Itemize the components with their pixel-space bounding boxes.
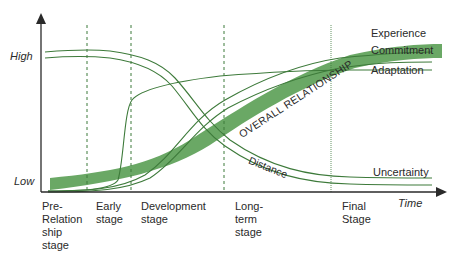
stage-label-early: Early stage	[96, 200, 123, 226]
y-high-label: High	[10, 50, 33, 63]
adaptation-label: Adaptation	[371, 64, 424, 77]
stage-label-long-term: Long- term stage	[235, 200, 263, 239]
x-axis-arrow-icon	[436, 187, 447, 197]
experience-label: Experience	[371, 27, 426, 40]
stage-label-final: Final Stage	[342, 200, 371, 226]
commitment-label: Commitment	[371, 44, 433, 57]
x-time-label: Time	[398, 197, 422, 210]
stage-label-development: Development stage	[141, 200, 206, 226]
y-low-label: Low	[14, 175, 34, 188]
stage-label-pre-relationship: Pre- Relation ship stage	[42, 200, 82, 252]
uncertainty-label: Uncertainty	[373, 166, 429, 179]
y-axis-arrow-icon	[36, 13, 46, 24]
